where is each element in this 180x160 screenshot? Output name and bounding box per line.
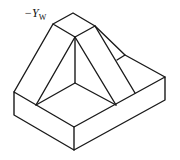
top-face [53, 13, 95, 37]
isometric-diagram: −YW [0, 0, 180, 160]
right-face-edge [95, 26, 135, 93]
right-slope-edge [95, 26, 165, 77]
left-slope-edge [14, 24, 53, 92]
pyramid-edge-right [75, 37, 116, 105]
solid-drawing [0, 0, 180, 160]
base-block [14, 77, 165, 150]
step-edge [117, 55, 125, 60]
